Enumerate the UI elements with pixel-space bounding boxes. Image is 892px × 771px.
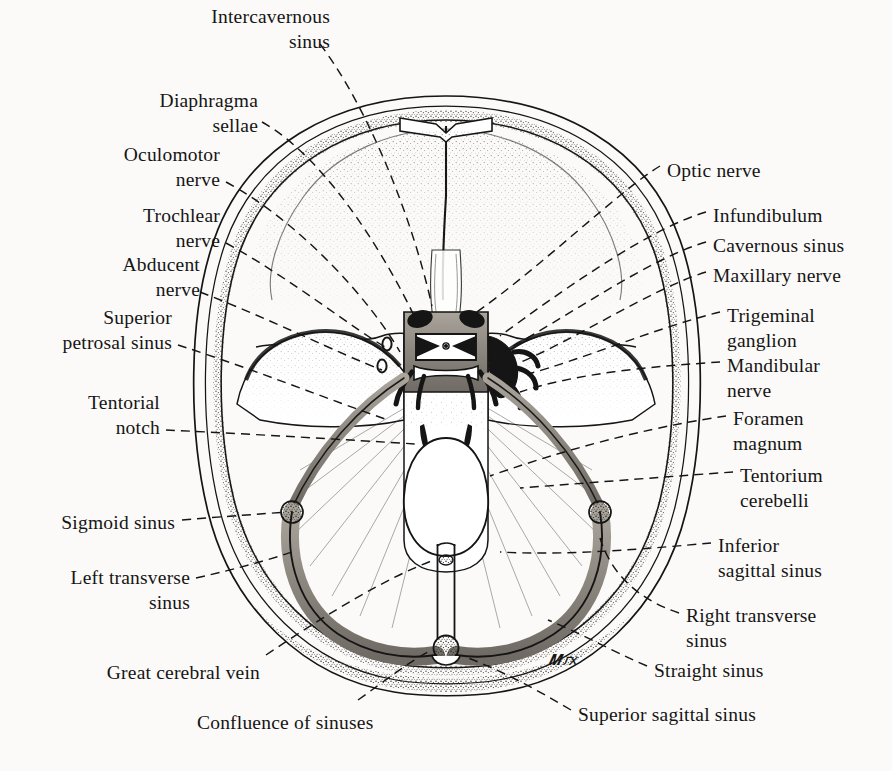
foramen-magnum-structure bbox=[404, 438, 488, 556]
label-sigmoid-sinus: Sigmoid sinus bbox=[35, 510, 175, 535]
label-optic-nerve: Optic nerve bbox=[667, 158, 847, 183]
label-cavernous-sinus: Cavernous sinus bbox=[713, 233, 892, 258]
label-great-cerebral-vein: Great cerebral vein bbox=[70, 660, 260, 685]
label-intercavernous-sinus: Intercavernous sinus bbox=[170, 4, 330, 54]
leader-tentorium-cerebelli bbox=[520, 472, 733, 488]
label-left-transverse-sinus: Left transverse sinus bbox=[38, 565, 190, 615]
infundibulum-structure bbox=[444, 344, 448, 348]
label-trigeminal-ganglion: Trigeminal ganglion bbox=[727, 303, 887, 353]
label-trochlear-nerve: Trochlear nerve bbox=[96, 203, 220, 253]
label-maxillary-nerve: Maxillary nerve bbox=[713, 263, 892, 288]
label-oculomotor-nerve: Oculomotor nerve bbox=[88, 142, 220, 192]
leader-left-transverse-sinus bbox=[196, 552, 292, 578]
label-superior-petrosal-sinus: Superior petrosal sinus bbox=[32, 305, 172, 355]
label-straight-sinus: Straight sinus bbox=[654, 658, 824, 683]
label-tentorium-cerebelli: Tentorium cerebelli bbox=[740, 463, 892, 513]
label-confluence-of-sinuses: Confluence of sinuses bbox=[197, 710, 437, 735]
label-mandibular-nerve: Mandibular nerve bbox=[727, 353, 887, 403]
label-foramen-magnum: Foramen magnum bbox=[733, 406, 892, 456]
great-cerebral-vein-structure bbox=[439, 555, 453, 565]
label-diaphragma-sellae: Diaphragma sellae bbox=[118, 88, 258, 138]
label-inferior-sagittal-sinus: Inferior sagittal sinus bbox=[718, 533, 888, 583]
label-right-transverse-sinus: Right transverse sinus bbox=[686, 603, 866, 653]
label-tentorial-notch: Tentorial notch bbox=[40, 390, 160, 440]
artist-monogram: 𝑴 ԕ bbox=[548, 652, 579, 668]
label-abducent-nerve: Abducent nerve bbox=[76, 252, 200, 302]
anatomical-figure: 𝑴 ԕ Intercavernous sinusDiaphragma sella… bbox=[0, 0, 892, 771]
label-superior-sagittal-sinus: Superior sagittal sinus bbox=[578, 702, 818, 727]
leader-tentorial-notch bbox=[166, 430, 416, 444]
label-infundibulum: Infundibulum bbox=[713, 203, 892, 228]
